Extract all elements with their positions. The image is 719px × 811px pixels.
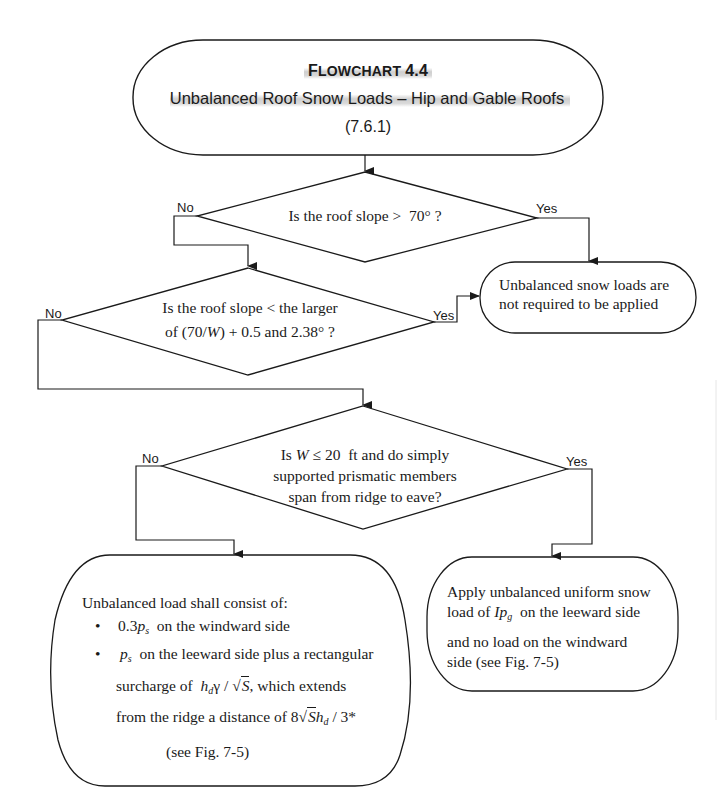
surcharge-slash: / bbox=[220, 677, 232, 694]
distance-prefix: from the ridge a distance of bbox=[116, 708, 287, 725]
d2-line2-prefix: of (70/ bbox=[165, 323, 207, 340]
bullet2-line2: surcharge of hdγ / √S, which extends bbox=[82, 674, 402, 702]
decision-1-no-label: No bbox=[177, 200, 194, 215]
terminal-not-required-text: Unbalanced snow loads are not required t… bbox=[499, 275, 689, 313]
uniform-line4: side (see Fig. 7-5) bbox=[447, 652, 672, 672]
sqrt-icon: √ bbox=[232, 677, 241, 694]
flowchart-title: Unbalanced Roof Snow Loads – Hip and Gab… bbox=[120, 89, 620, 108]
decision-2-yes-label: Yes bbox=[433, 308, 454, 323]
d3-var-w: W bbox=[296, 446, 309, 463]
flowchart-label-cap: F bbox=[308, 62, 318, 79]
flowchart-title-text: Unbalanced Roof Snow Loads – Hip and Gab… bbox=[170, 89, 570, 107]
unbalanced-see-fig: (see Fig. 7-5) bbox=[82, 740, 402, 763]
section-reference: (7.6.1) bbox=[133, 118, 603, 136]
flowchart-label: FLOWCHART 4.4 bbox=[133, 62, 603, 80]
bullet-windward: • 0.3ps on the windward side bbox=[82, 614, 402, 642]
bullet1-sub: s bbox=[145, 625, 149, 636]
surcharge-suffix: , which extends bbox=[249, 677, 346, 694]
flowchart-canvas: FLOWCHART 4.4 Unbalanced Roof Snow Loads… bbox=[0, 0, 719, 811]
bullet2-var: p bbox=[120, 645, 128, 662]
uniform-var-Ip: Ip bbox=[494, 603, 507, 620]
bullet-icon: • bbox=[95, 614, 100, 637]
terminal-unbalanced-load-text: Unbalanced load shall consist of: • 0.3p… bbox=[82, 591, 402, 763]
distance-suffix: / 3* bbox=[329, 708, 357, 725]
d2-line2: of (70/W) + 0.5 and 2.38° ? bbox=[120, 320, 380, 344]
flowchart-label-rest: LOWCHART bbox=[318, 63, 401, 79]
d2-line1: Is the roof slope < the larger bbox=[120, 296, 380, 320]
bullet-icon: • bbox=[95, 642, 100, 665]
connector-d3-no bbox=[136, 466, 234, 554]
flowchart-label-highlight: FLOWCHART 4.4 bbox=[304, 63, 432, 79]
decision-1-question: Is the roof slope > 70° ? bbox=[250, 204, 480, 228]
decision-3-yes-label: Yes bbox=[566, 454, 587, 469]
surcharge-prefix: surcharge of bbox=[116, 677, 193, 694]
distance-8: 8 bbox=[291, 708, 299, 725]
bullet2-line3: from the ridge a distance of 8√Shd / 3* bbox=[82, 705, 402, 733]
uniform-sub-g: g bbox=[507, 611, 512, 622]
bullet-leeward: • ps on the leeward side plus a rectangu… bbox=[82, 642, 402, 670]
connector-d1-no bbox=[174, 216, 248, 266]
d3-line1: Is W ≤ 20 ft and do simply bbox=[240, 444, 490, 465]
bullet1-text: on the windward side bbox=[157, 617, 290, 634]
bullet1-coef: 0.3 bbox=[118, 617, 137, 634]
not-required-line2: not required to be applied bbox=[499, 294, 689, 313]
d2-value: 2.38 bbox=[291, 323, 318, 340]
d1-prefix: Is the roof slope > bbox=[288, 207, 401, 224]
d3-suffix: ft and do simply bbox=[348, 446, 449, 463]
d2-line2-mid: ) + 0.5 and bbox=[220, 323, 287, 340]
d2-var-w: W bbox=[207, 323, 220, 340]
distance-h: h bbox=[316, 708, 324, 725]
terminal-uniform-load-text: Apply unbalanced uniform snow load of Ip… bbox=[447, 582, 672, 672]
d2-suffix: ° ? bbox=[318, 323, 335, 340]
uniform-line2: load of Ipg on the leeward side bbox=[447, 602, 672, 627]
uniform-line3: and no load on the windward bbox=[447, 632, 672, 652]
flowchart-number: 4.4 bbox=[405, 62, 428, 79]
d1-value: 70 bbox=[409, 207, 425, 224]
decision-3-no-label: No bbox=[142, 451, 159, 466]
not-required-line1: Unbalanced snow loads are bbox=[499, 275, 689, 294]
decision-3-question: Is W ≤ 20 ft and do simply supported pri… bbox=[240, 444, 490, 507]
uniform-line1: Apply unbalanced uniform snow bbox=[447, 582, 672, 602]
unbalanced-intro: Unbalanced load shall consist of: bbox=[82, 591, 402, 614]
decision-2-no-label: No bbox=[45, 306, 62, 321]
d1-suffix: ° ? bbox=[425, 207, 442, 224]
distance-S: S bbox=[307, 707, 316, 725]
bullet2-text: on the leeward side plus a rectangular bbox=[139, 645, 373, 662]
d3-op: ≤ 20 bbox=[313, 446, 341, 463]
uniform-line2-prefix: load of bbox=[447, 603, 490, 620]
connector-d1-yes bbox=[537, 218, 589, 261]
decision-2-question: Is the roof slope < the larger of (70/W)… bbox=[120, 296, 380, 344]
bullet1-var: p bbox=[137, 617, 145, 634]
sqrt-icon: √ bbox=[299, 708, 308, 725]
bullet2-sub: s bbox=[128, 653, 132, 664]
uniform-line2-suffix: on the leeward side bbox=[520, 603, 640, 620]
d3-line2: supported prismatic members bbox=[240, 465, 490, 486]
d3-line3: span from ridge to eave? bbox=[240, 486, 490, 507]
decision-1-yes-label: Yes bbox=[536, 201, 557, 216]
connector-d3-yes bbox=[552, 469, 592, 556]
d3-prefix: Is bbox=[281, 446, 292, 463]
